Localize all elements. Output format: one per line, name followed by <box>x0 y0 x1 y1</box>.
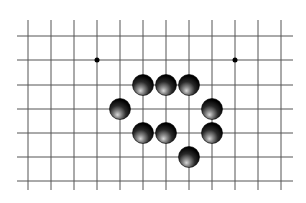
black-stone <box>110 99 131 120</box>
go-board <box>0 0 306 203</box>
black-stone <box>179 147 200 168</box>
black-stone <box>202 123 223 144</box>
grid-lines <box>17 20 293 190</box>
star-point <box>95 58 100 63</box>
black-stone <box>133 75 154 96</box>
black-stone <box>156 123 177 144</box>
black-stone <box>179 75 200 96</box>
star-point <box>233 58 238 63</box>
black-stone <box>202 99 223 120</box>
black-stone <box>156 75 177 96</box>
black-stone <box>133 123 154 144</box>
